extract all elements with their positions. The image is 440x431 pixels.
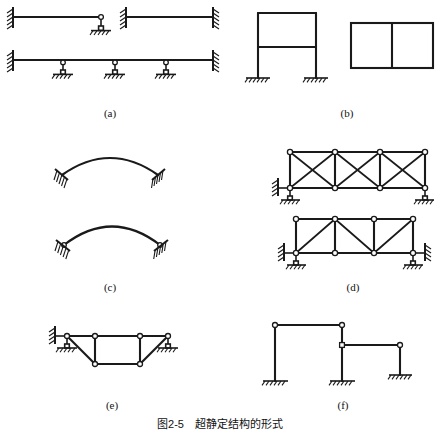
beam-continuous — [7, 50, 219, 79]
panel-e: (e) — [49, 326, 178, 412]
panel-label-d: (d) — [347, 281, 360, 294]
end-diagonal-right — [140, 336, 168, 364]
link-support-right-base — [403, 256, 423, 270]
truss-node — [332, 216, 337, 221]
truss-node — [65, 334, 70, 339]
panel-d: (d) — [272, 149, 434, 294]
panel-label-a: (a) — [104, 107, 117, 120]
wall-support-left — [272, 178, 287, 196]
frame-stepped — [262, 323, 412, 386]
link-support-2 — [104, 60, 125, 78]
truss-node — [93, 362, 98, 367]
link-support-left-base — [280, 191, 300, 205]
truss-node — [377, 149, 382, 154]
truss-node — [332, 250, 337, 255]
link-support-left-base — [56, 339, 77, 353]
panel-label-b: (b) — [341, 107, 354, 120]
diagonal-2 — [335, 219, 374, 253]
link-support-1 — [52, 60, 73, 78]
panel-label-f: (f) — [338, 399, 349, 412]
link-support-right-base — [414, 191, 434, 205]
link-shoe — [113, 70, 118, 74]
beam-fixed-fixed — [120, 7, 219, 29]
panel-b: (b) — [245, 13, 433, 120]
hinge-node — [113, 60, 118, 65]
truss-node — [93, 334, 98, 339]
fixed-base-right — [303, 78, 328, 82]
truss-diagonal-braced — [278, 216, 431, 269]
fixed-base-right — [388, 375, 412, 379]
beam-propped-cantilever — [7, 7, 111, 35]
figure-caption: 图2-5 超静定结构的形式 — [157, 417, 283, 430]
truss-node — [293, 216, 298, 221]
wall-support-left — [49, 326, 65, 344]
hinge-node — [61, 60, 66, 65]
link-shoe — [99, 26, 104, 30]
link-support-right-base — [157, 339, 178, 353]
structural-figure: (a) — [0, 0, 440, 431]
hinge-node — [99, 15, 104, 20]
diagonal-1 — [296, 219, 335, 253]
arch-fixed — [54, 158, 165, 188]
link-shoe — [164, 70, 169, 74]
panel-c: (c) — [54, 158, 168, 294]
arch-two-hinged — [55, 227, 168, 260]
truss-cross-braced — [272, 149, 434, 204]
hinge-node-upper-left — [273, 323, 278, 328]
truss-node — [138, 334, 143, 339]
hinge-node-upper-right — [340, 323, 345, 328]
fixed-base-middle — [329, 381, 355, 385]
truss-node — [410, 250, 415, 255]
truss-node — [166, 334, 171, 339]
panel-a: (a) — [7, 7, 219, 120]
hinge-node-lower-right — [398, 343, 403, 348]
panel-label-c: (c) — [104, 281, 117, 294]
frame-closed-rectangle — [351, 23, 433, 68]
fixed-base-left — [245, 78, 270, 82]
figure-container: (a) — [0, 0, 440, 431]
hinge-node-step — [340, 343, 345, 348]
truss-node — [377, 185, 382, 190]
hinge-node — [164, 60, 169, 65]
truss-node — [332, 185, 337, 190]
link-support-3 — [155, 60, 176, 78]
link-support-left-base — [286, 256, 306, 270]
frame-two-story — [245, 13, 328, 82]
truss-node — [287, 185, 292, 190]
wall-support-right — [416, 243, 431, 261]
truss-node — [371, 250, 376, 255]
truss-trapezoidal — [49, 326, 178, 367]
truss-node — [422, 185, 427, 190]
truss-node — [422, 149, 427, 154]
link-shoe — [61, 70, 66, 74]
truss-node — [293, 250, 298, 255]
arch-curve — [62, 158, 158, 175]
truss-node — [371, 216, 376, 221]
fixed-base-left — [262, 381, 288, 385]
end-diagonal-left — [67, 336, 95, 364]
panel-label-e: (e) — [106, 399, 119, 412]
truss-node — [332, 149, 337, 154]
truss-node — [410, 216, 415, 221]
truss-node — [138, 362, 143, 367]
arch-curve — [64, 227, 160, 246]
truss-node — [287, 149, 292, 154]
panel-f: (f) — [262, 323, 412, 413]
wall-support-left — [278, 243, 293, 261]
diagonal-3 — [374, 219, 413, 253]
